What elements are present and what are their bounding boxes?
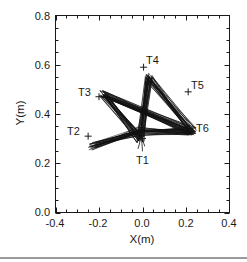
target-marker-t2 bbox=[85, 133, 92, 140]
x-tick-label--0.2: -0.2 bbox=[89, 217, 108, 229]
y-axis-title: Y(m) bbox=[14, 100, 26, 125]
target-label-t1: T1 bbox=[136, 154, 149, 166]
target-label-t2: T2 bbox=[67, 125, 80, 137]
x-tick-label-0.4: 0.4 bbox=[221, 217, 236, 229]
x-tick-label--0.4: -0.4 bbox=[46, 217, 65, 229]
target-marker-t3 bbox=[96, 93, 103, 100]
target-label-t6: T6 bbox=[196, 122, 209, 134]
y-tick-label-0.4: 0.4 bbox=[35, 108, 50, 120]
bottom-divider bbox=[0, 257, 247, 259]
y-tick-label-0.2: 0.2 bbox=[35, 157, 50, 169]
y-tick-label-0.6: 0.6 bbox=[35, 59, 50, 71]
target-label-t4: T4 bbox=[146, 54, 159, 66]
x-tick-label-0.0: 0.0 bbox=[134, 217, 149, 229]
target-label-t3: T3 bbox=[78, 86, 91, 98]
target-label-t5: T5 bbox=[191, 79, 204, 91]
x-axis-title: X(m) bbox=[130, 233, 155, 245]
x-tick-label-0.2: 0.2 bbox=[178, 217, 193, 229]
y-tick-label-0.8: 0.8 bbox=[35, 10, 50, 22]
trajectory-chart: 0.0 0.2 0.4 0.6 0.8 -0.4 -0.2 0.0 0.2 0.… bbox=[0, 0, 247, 262]
